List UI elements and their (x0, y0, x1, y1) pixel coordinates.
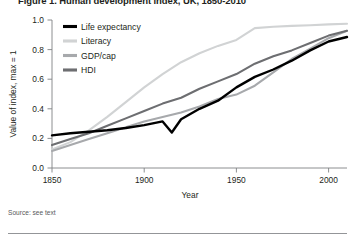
y-axis-title: Value of index, max = 1 (8, 50, 18, 137)
y-tick-label: 0.0 (32, 163, 44, 173)
series-line-gdp-cap (52, 31, 347, 151)
x-axis-tick-labels: 1850 1900 1950 2000 (43, 175, 339, 185)
figure-title: Figure 1. Human development index, UK, 1… (18, 0, 246, 6)
x-tick-label: 1900 (135, 175, 154, 185)
y-tick-label: 0.6 (32, 74, 44, 84)
chart-plot-area: 1.0 0.8 0.6 0.4 0.2 0.0 1850 1900 1950 2… (0, 8, 355, 203)
legend-label-hdi: HDI (81, 65, 96, 75)
x-tick-label: 2000 (319, 175, 338, 185)
y-tick-label: 0.4 (32, 104, 44, 114)
legend-label-literacy: Literacy (81, 36, 112, 46)
x-axis-title: Year (182, 190, 199, 200)
chart-legend: Life expectancy Literacy GDP/cap HDI (63, 22, 141, 76)
figure-container: Figure 1. Human development index, UK, 1… (0, 0, 355, 245)
y-axis-tick-labels: 1.0 0.8 0.6 0.4 0.2 0.0 (32, 15, 44, 173)
source-note: Source: see text (8, 209, 56, 216)
y-tick-label: 0.2 (32, 133, 44, 143)
line-chart-svg: 1.0 0.8 0.6 0.4 0.2 0.0 1850 1900 1950 2… (0, 8, 355, 203)
y-tick-label: 1.0 (32, 15, 44, 25)
legend-label-gdp-cap: GDP/cap (81, 51, 116, 61)
series-line-hdi (52, 31, 347, 145)
x-axis-ticks (52, 168, 329, 173)
bottom-divider (8, 233, 347, 234)
y-tick-label: 0.8 (32, 45, 44, 55)
legend-label-life-expectancy: Life expectancy (81, 22, 141, 32)
x-tick-label: 1950 (227, 175, 246, 185)
x-tick-label: 1850 (43, 175, 62, 185)
